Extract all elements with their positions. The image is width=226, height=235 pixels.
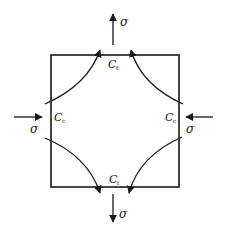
svg-text:t: t: [116, 64, 119, 71]
c-bottom-label: C t: [109, 173, 120, 186]
c-top-label: C t: [108, 58, 119, 71]
curve-top-left: [45, 50, 100, 104]
curve-bottom-right: [129, 137, 182, 193]
sigma-left-label: σ: [30, 122, 39, 136]
svg-text:c: c: [173, 117, 177, 124]
stress-diagram: σ σ σ σ C t C t C c C c: [0, 0, 226, 235]
svg-text:t: t: [117, 179, 120, 186]
curve-top-right: [131, 50, 183, 104]
c-right-label: C c: [165, 111, 177, 124]
curve-bottom-left: [45, 138, 100, 193]
sigma-top-label: σ: [120, 15, 129, 29]
element-square: [51, 55, 179, 187]
c-left-label: C c: [54, 111, 66, 124]
sigma-bottom-label: σ: [119, 207, 128, 221]
svg-text:c: c: [62, 117, 66, 124]
sigma-right-label: σ: [186, 122, 195, 136]
